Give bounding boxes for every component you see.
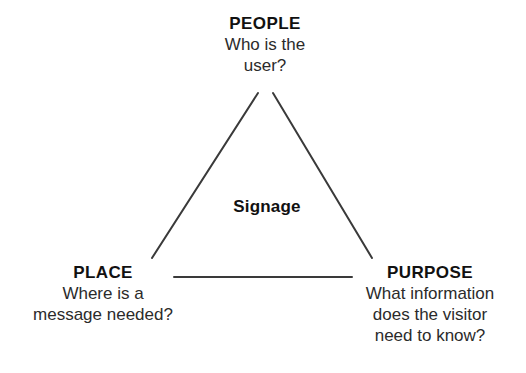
node-people-description-line-1: Who is the	[145, 34, 385, 55]
node-place: PLACE Where is a message needed?	[3, 262, 203, 325]
node-place-title: PLACE	[3, 262, 203, 283]
diagram-canvas: PEOPLE Who is the user? PLACE Where is a…	[0, 0, 526, 373]
triangle-left-edge	[152, 93, 258, 258]
triangle-right-edge	[273, 93, 372, 258]
node-purpose-description: What information does the visitor need t…	[338, 283, 522, 346]
node-purpose: PURPOSE What information does the visito…	[338, 262, 522, 346]
center-label: Signage	[187, 197, 347, 217]
node-place-description-line-1: Where is a	[3, 283, 203, 304]
node-purpose-description-line-3: need to know?	[338, 325, 522, 346]
node-people-title: PEOPLE	[145, 13, 385, 34]
node-purpose-description-line-1: What information	[338, 283, 522, 304]
node-people-description: Who is the user?	[145, 34, 385, 76]
node-purpose-title: PURPOSE	[338, 262, 522, 283]
node-people-description-line-2: user?	[145, 55, 385, 76]
node-place-description-line-2: message needed?	[3, 304, 203, 325]
node-place-description: Where is a message needed?	[3, 283, 203, 325]
node-purpose-description-line-2: does the visitor	[338, 304, 522, 325]
node-people: PEOPLE Who is the user?	[145, 13, 385, 76]
